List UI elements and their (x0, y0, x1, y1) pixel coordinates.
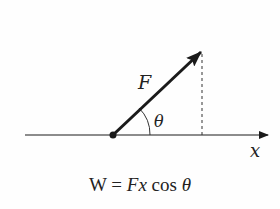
angle-label: θ (154, 112, 164, 131)
eq-theta: θ (182, 174, 191, 195)
eq-w: W (89, 174, 107, 195)
work-diagram: F θ x W = Fx cos θ (0, 0, 280, 209)
eq-f: F (127, 174, 139, 195)
work-equation: W = Fx cos θ (0, 174, 280, 196)
eq-cos: cos (152, 174, 177, 195)
origin-point (110, 132, 117, 139)
angle-arc (139, 108, 150, 135)
force-label: F (137, 71, 152, 93)
eq-equals: = (111, 174, 122, 195)
axis-label: x (250, 140, 260, 161)
eq-x: x (138, 174, 146, 195)
